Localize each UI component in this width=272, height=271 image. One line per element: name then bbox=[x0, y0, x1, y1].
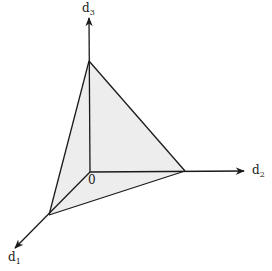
origin-label: 0 bbox=[88, 173, 96, 187]
axis-d1 bbox=[15, 172, 90, 248]
axis-label-d2: d2 bbox=[252, 163, 265, 179]
simplex-diagram: 0 d3 d2 d1 bbox=[0, 0, 272, 271]
axis-label-d3: d3 bbox=[82, 1, 95, 17]
axis-label-d1: d1 bbox=[8, 250, 21, 266]
